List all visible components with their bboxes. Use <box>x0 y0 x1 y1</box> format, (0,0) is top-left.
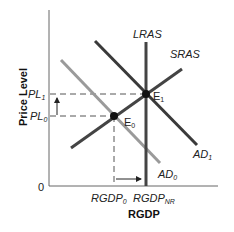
rgdp0-label: RGDP0 <box>91 192 127 205</box>
e0-label: E0 <box>124 116 135 129</box>
sras-curve <box>71 69 182 148</box>
origin-label: 0 <box>38 181 44 193</box>
ad1-label: AD1 <box>192 148 212 161</box>
e1-point <box>142 90 150 98</box>
pl0-label: PL0 <box>30 110 47 123</box>
x-axis-title: RGDP <box>128 208 160 220</box>
ad-as-diagram: Price Level PL1 PL0 0 RGDP0 RGDPNR RGDP … <box>0 0 234 232</box>
e0-point <box>110 112 118 120</box>
pl1-label: PL1 <box>28 88 45 101</box>
rgdpnr-label: RGDPNR <box>133 192 175 205</box>
sras-label: SRAS <box>170 48 201 60</box>
e1-label: E1 <box>153 90 164 103</box>
lras-label: LRAS <box>133 28 162 40</box>
ad0-label: AD0 <box>157 168 177 181</box>
